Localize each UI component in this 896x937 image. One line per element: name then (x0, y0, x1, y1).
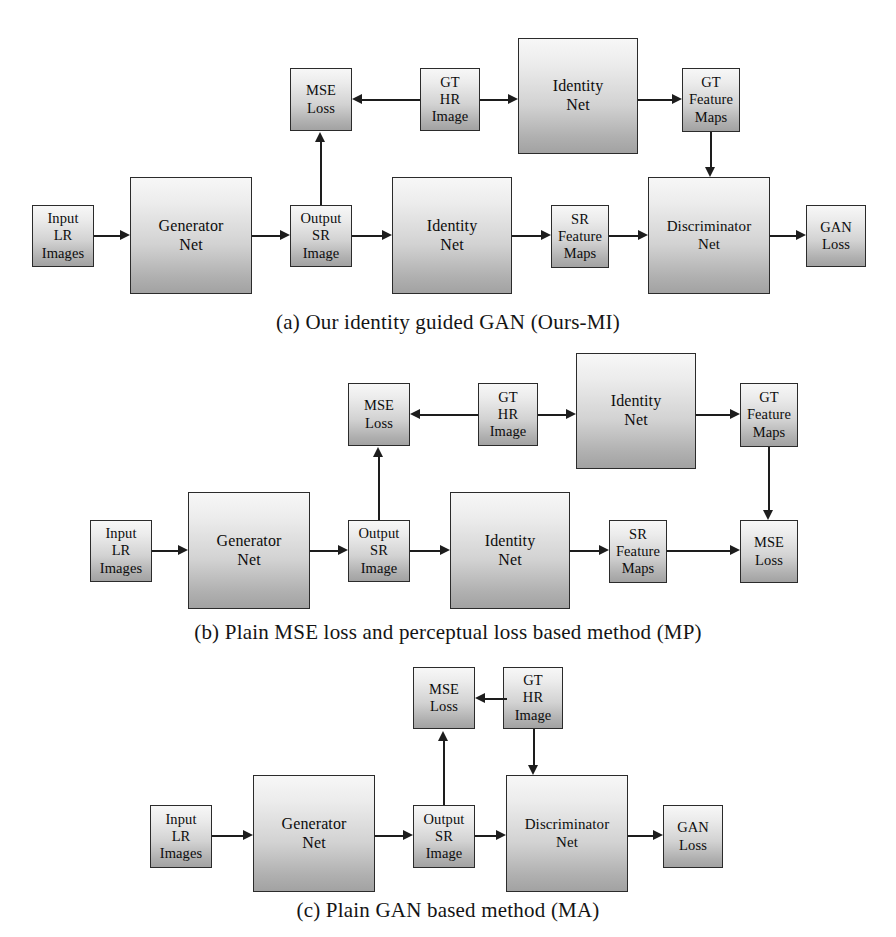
edge-sr-features-to-discriminator (609, 235, 638, 237)
arrowhead-output-to-identity-bottom (382, 230, 392, 240)
figure-canvas: MSE Loss GT HR Image Identity Net GT Fea… (0, 0, 896, 937)
edge-input-to-generator (212, 835, 243, 837)
arrowhead-input-to-generator (120, 230, 130, 240)
edge-generator-to-output (375, 835, 403, 837)
edge-discriminator-to-gan-loss (770, 235, 796, 237)
edge-output-to-discriminator (475, 835, 496, 837)
arrowhead-identity-bottom-to-sr-features (541, 230, 551, 240)
node-input-lr-images: Input LR Images (90, 520, 152, 582)
node-gan-loss: GAN Loss (806, 205, 866, 267)
edge-identity-bottom-to-sr-features (570, 550, 599, 552)
node-generator-net: Generator Net (130, 177, 252, 294)
panel-a-caption: (a) Our identity guided GAN (Ours-MI) (0, 310, 896, 335)
node-output-sr-image: Output SR Image (290, 205, 352, 267)
edge-gt-hr-to-identity-top (480, 99, 508, 101)
arrowhead-discriminator-to-gan-loss (796, 230, 806, 240)
node-sr-feature-maps: SR Feature Maps (551, 205, 609, 268)
node-output-sr-image: Output SR Image (348, 520, 410, 582)
node-generator-net: Generator Net (253, 775, 375, 892)
node-input-lr-images: Input LR Images (32, 205, 94, 267)
arrowhead-gt-features-to-discriminator (705, 167, 715, 177)
arrowhead-gt-features-to-mse-right (763, 510, 773, 520)
arrowhead-identity-top-to-gt-features (730, 409, 740, 419)
edge-identity-top-to-gt-features (638, 99, 672, 101)
edge-identity-top-to-gt-features (696, 414, 730, 416)
node-gan-loss: GAN Loss (663, 805, 723, 868)
arrowhead-sr-features-to-discriminator (638, 230, 648, 240)
edge-output-to-mse (320, 142, 322, 205)
arrowhead-gt-hr-to-mse (410, 409, 420, 419)
arrowhead-input-to-generator (243, 830, 253, 840)
edge-gt-features-to-discriminator (710, 132, 712, 167)
node-discriminator-net: Discriminator Net (506, 775, 628, 892)
arrowhead-gt-hr-to-discriminator (528, 765, 538, 775)
node-identity-net-bottom: Identity Net (450, 492, 570, 609)
node-gt-hr-image: GT HR Image (420, 68, 480, 131)
node-mse-loss-right: MSE Loss (740, 520, 798, 583)
edge-generator-to-output (310, 550, 338, 552)
node-gt-hr-image: GT HR Image (478, 383, 538, 446)
arrowhead-gt-hr-to-identity-top (508, 94, 518, 104)
arrowhead-gt-hr-to-identity-top (566, 409, 576, 419)
arrowhead-generator-to-output (403, 830, 413, 840)
edge-gt-hr-to-discriminator (533, 729, 535, 765)
edge-identity-bottom-to-sr-features (512, 235, 541, 237)
node-identity-net-top: Identity Net (576, 353, 696, 469)
node-mse-loss: MSE Loss (413, 667, 475, 729)
node-gt-feature-maps: GT Feature Maps (740, 383, 798, 447)
arrowhead-sr-features-to-mse-right (730, 545, 740, 555)
node-identity-net-top: Identity Net (518, 38, 638, 154)
node-mse-loss-top: MSE Loss (348, 383, 410, 446)
edge-output-to-mse (443, 741, 445, 805)
arrowhead-gt-hr-to-mse (352, 94, 362, 104)
arrowhead-discriminator-to-gan-loss (653, 830, 663, 840)
arrowhead-identity-bottom-to-sr-features (599, 545, 609, 555)
arrowhead-output-to-mse (438, 731, 448, 741)
arrowhead-identity-top-to-gt-features (672, 94, 682, 104)
edge-gt-hr-to-identity-top (538, 414, 566, 416)
edge-gt-hr-to-mse (362, 99, 420, 101)
arrowhead-input-to-generator (178, 545, 188, 555)
node-output-sr-image: Output SR Image (413, 805, 475, 868)
edge-output-to-mse (378, 457, 380, 520)
node-gt-feature-maps: GT Feature Maps (682, 68, 740, 132)
edge-output-to-identity-bottom (352, 235, 382, 237)
edge-generator-to-output (252, 235, 280, 237)
arrowhead-output-to-mse (373, 447, 383, 457)
edge-gt-hr-to-mse (420, 414, 478, 416)
arrowhead-output-to-identity-bottom (440, 545, 450, 555)
arrowhead-output-to-mse (315, 132, 325, 142)
edge-discriminator-to-gan-loss (628, 835, 653, 837)
node-mse-loss: MSE Loss (290, 68, 352, 131)
node-input-lr-images: Input LR Images (150, 805, 212, 868)
node-sr-feature-maps: SR Feature Maps (609, 520, 667, 583)
edge-gt-hr-to-mse (485, 698, 507, 700)
panel-b-caption: (b) Plain MSE loss and perceptual loss b… (0, 620, 896, 645)
node-gt-hr-image: GT HR Image (503, 667, 563, 729)
panel-c-caption: (c) Plain GAN based method (MA) (0, 898, 896, 923)
edge-gt-features-to-mse-right (768, 447, 770, 510)
arrowhead-generator-to-output (280, 230, 290, 240)
edge-output-to-identity-bottom (410, 550, 440, 552)
arrowhead-output-to-discriminator (496, 830, 506, 840)
node-generator-net: Generator Net (188, 492, 310, 609)
edge-input-to-generator (152, 550, 178, 552)
arrowhead-generator-to-output (338, 545, 348, 555)
node-discriminator-net: Discriminator Net (648, 177, 770, 294)
node-identity-net-bottom: Identity Net (392, 177, 512, 294)
edge-sr-features-to-mse-right (667, 550, 730, 552)
arrowhead-gt-hr-to-mse (475, 693, 485, 703)
edge-input-to-generator (94, 235, 120, 237)
